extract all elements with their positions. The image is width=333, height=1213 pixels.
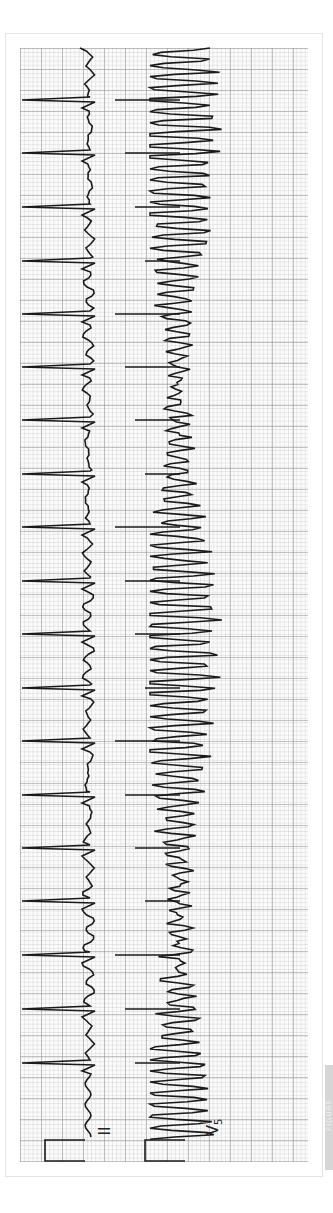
calibration-pulse-v5 [145, 1140, 185, 1161]
lead-label-v5: V5 [204, 1119, 224, 1136]
lead-label-ii: II [96, 1127, 114, 1136]
figure-tag: FIGURE [325, 1065, 333, 1170]
ecg-traces [0, 0, 333, 1213]
lead-v5-trace [115, 48, 222, 1139]
lead-ii-trace [22, 48, 95, 1137]
calibration-pulse-ii [45, 1140, 85, 1161]
figure-tag-text: FIGURE [325, 1065, 333, 1165]
